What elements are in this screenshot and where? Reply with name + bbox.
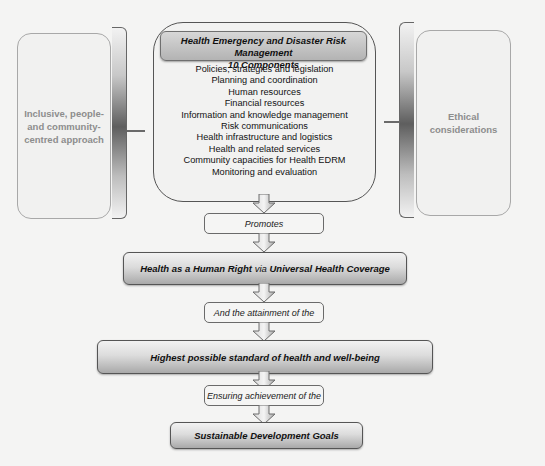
highest-standard-box: Highest possible standard of health and …: [97, 340, 433, 374]
uhc-text: Universal Health Coverage: [269, 263, 389, 274]
ethical-considerations-box: Ethical considerations: [416, 30, 511, 216]
down-arrow-icon: [252, 233, 276, 253]
human-right-text: Health as a Human Right: [140, 263, 252, 274]
down-arrow-icon: [252, 194, 276, 214]
right-bracket: [399, 22, 414, 218]
attainment-label-box: And the attainment of the: [204, 302, 324, 323]
ethical-line-2: considerations: [430, 123, 498, 136]
promotes-label-box: Promotes: [204, 213, 324, 234]
promotes-text: Promotes: [245, 219, 284, 229]
components-header: Health Emergency and Disaster Risk Manag…: [160, 31, 367, 61]
ensuring-label-box: Ensuring achievement of the: [204, 385, 324, 406]
component-item: Community capacities for Health EDRM: [153, 155, 376, 166]
component-item: Health infrastructure and logistics: [153, 132, 376, 143]
sdg-box: Sustainable Development Goals: [170, 422, 363, 449]
components-list: Policies, strategies and legislation Pla…: [153, 64, 376, 178]
header-title: Health Emergency and Disaster Risk Manag…: [161, 35, 366, 59]
component-item: Planning and coordination: [153, 75, 376, 86]
component-item: Human resources: [153, 87, 376, 98]
component-item: Health and related services: [153, 144, 376, 155]
sdg-text: Sustainable Development Goals: [194, 430, 339, 441]
via-text: via: [252, 263, 269, 274]
ensuring-text: Ensuring achievement of the: [207, 391, 321, 401]
right-bracket-pointer: [384, 121, 400, 123]
component-item: Risk communications: [153, 121, 376, 132]
down-arrow-icon: [252, 283, 276, 303]
component-item: Information and knowledge management: [153, 110, 376, 121]
component-item: Policies, strategies and legislation: [153, 64, 376, 75]
attainment-text: And the attainment of the: [214, 308, 315, 318]
inclusive-line-1: Inclusive, people-: [24, 107, 104, 120]
down-arrow-icon: [252, 322, 276, 342]
inclusive-line-2: and community-: [24, 120, 104, 133]
ethical-line-1: Ethical: [430, 110, 498, 123]
component-item: Monitoring and evaluation: [153, 167, 376, 178]
left-bracket-pointer: [127, 130, 145, 132]
inclusive-line-3: centred approach: [24, 133, 104, 146]
inclusive-approach-box: Inclusive, people- and community- centre…: [17, 33, 111, 219]
highest-standard-text: Highest possible standard of health and …: [150, 352, 380, 363]
left-bracket: [112, 27, 127, 219]
component-item: Financial resources: [153, 98, 376, 109]
human-right-box: Health as a Human Right via Universal He…: [123, 252, 407, 285]
